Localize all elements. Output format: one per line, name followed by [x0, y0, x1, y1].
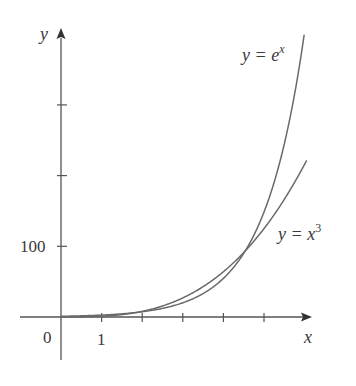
x-tick-label-1: 1 [97, 330, 106, 349]
y-tick-label-100: 100 [20, 237, 46, 256]
chart: y x 0 1 100 y = ex y = x3 [0, 0, 356, 386]
y-axis-arrow-icon [57, 28, 66, 39]
y-axis [57, 28, 68, 360]
y-axis-label: y [38, 24, 48, 44]
origin-label: 0 [43, 328, 52, 347]
y-ticks [57, 105, 67, 246]
cube-label-main: y = x [276, 224, 315, 244]
exp-curve [61, 35, 304, 317]
exp-label-superscript: x [278, 42, 285, 56]
cube-curve-label: y = x3 [276, 221, 321, 244]
cube-curve [61, 160, 307, 317]
exp-label-main: y = e [240, 45, 279, 65]
x-axis-label: x [303, 327, 312, 347]
exp-curve-label: y = ex [240, 42, 285, 65]
cube-label-superscript: 3 [315, 221, 321, 235]
